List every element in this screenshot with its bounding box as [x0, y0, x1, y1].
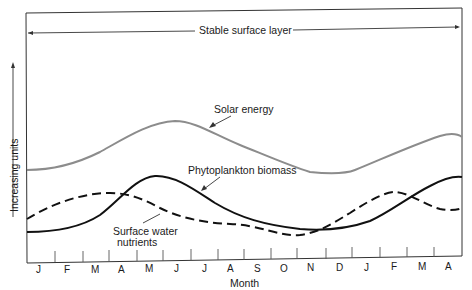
svg-text:A: A — [118, 264, 125, 275]
svg-text:nutrients: nutrients — [117, 236, 157, 248]
svg-text:F: F — [64, 264, 70, 275]
annotation-phytoplankton: Phytoplankton biomass — [188, 164, 297, 191]
svg-text:O: O — [280, 263, 288, 274]
svg-text:A: A — [445, 261, 452, 272]
svg-text:M: M — [418, 261, 426, 272]
svg-text:S: S — [254, 263, 261, 274]
svg-text:Phytoplankton biomass: Phytoplankton biomass — [188, 164, 297, 176]
banner-label: Stable surface layer — [199, 24, 292, 36]
svg-text:A: A — [227, 263, 234, 274]
arrow-left-icon — [28, 31, 33, 35]
annotation-nutrients: Surface water nutrients — [113, 214, 178, 248]
arrow-up-icon — [11, 62, 15, 68]
series-phytoplankton-biomass — [27, 176, 462, 232]
svg-text:N: N — [307, 262, 314, 273]
svg-text:F: F — [391, 261, 397, 272]
arrow-right-icon — [455, 25, 460, 29]
svg-text:M: M — [91, 264, 99, 275]
svg-text:D: D — [336, 262, 343, 273]
chart: Stable surface layer Increasing units J … — [0, 0, 472, 290]
svg-text:J: J — [36, 264, 41, 275]
svg-text:M: M — [145, 263, 153, 274]
stable-layer-banner: Stable surface layer — [28, 24, 460, 36]
annotation-solar: Solar energy — [209, 103, 274, 128]
svg-text:J: J — [364, 262, 369, 273]
y-axis: Increasing units — [8, 62, 20, 217]
x-axis-label: Month — [230, 277, 259, 289]
svg-text:J: J — [174, 263, 179, 274]
x-tick-labels: J F M A M J J A S O N D J F M A — [36, 261, 452, 275]
series-surface-water-nutrients — [27, 192, 462, 235]
y-axis-label: Increasing units — [8, 138, 20, 212]
svg-text:J: J — [202, 263, 207, 274]
svg-text:Solar energy: Solar energy — [214, 103, 274, 115]
